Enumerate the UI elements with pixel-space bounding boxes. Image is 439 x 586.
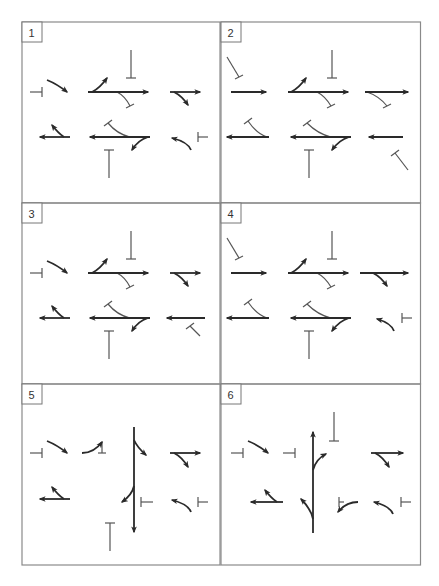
stop-cap: [244, 299, 252, 305]
movement-arrow-icon: [92, 78, 107, 92]
movement-arrow-icon: [132, 318, 148, 331]
stop-cap: [104, 120, 112, 126]
movement-arrow-icon: [47, 261, 67, 273]
movement-arrow-icon: [82, 442, 102, 453]
movement-arrow-icon: [332, 318, 349, 331]
stop-bar-icon: [117, 273, 130, 287]
movement-arrow-icon: [122, 486, 134, 502]
movement-arrow-icon: [174, 273, 188, 286]
panel-border: [221, 22, 421, 203]
movement-arrow-icon: [92, 259, 107, 273]
stop-cap: [126, 104, 134, 108]
stop-bar-icon: [367, 92, 387, 106]
stop-bar-icon: [248, 121, 267, 137]
stop-bar-icon: [227, 57, 239, 77]
stop-bar-icon: [395, 153, 408, 170]
stop-cap: [235, 256, 243, 260]
stop-cap: [383, 104, 391, 108]
panel-number: 2: [228, 27, 234, 39]
panel-2: 2: [221, 22, 421, 203]
stop-cap: [126, 285, 134, 289]
panel-4: 4: [221, 203, 421, 384]
movement-arrow-icon: [52, 125, 64, 137]
panel-number: 6: [228, 389, 234, 401]
movement-arrow-icon: [373, 273, 387, 286]
stop-bar-icon: [190, 326, 200, 336]
panel-5: 5: [22, 384, 220, 565]
panel-6: 6: [221, 384, 421, 565]
movement-arrow-icon: [172, 138, 191, 150]
movement-arrow-icon: [338, 502, 358, 512]
stop-cap: [244, 118, 252, 124]
movement-arrow-icon: [132, 137, 148, 150]
movement-arrow-icon: [375, 453, 389, 467]
stop-cap: [235, 75, 243, 79]
movement-arrow-icon: [174, 453, 188, 467]
panel-1: 1: [22, 22, 220, 203]
stop-cap: [327, 104, 335, 108]
stop-bar-icon: [227, 238, 239, 258]
movement-arrow-icon: [248, 441, 268, 453]
movement-arrow-icon: [172, 500, 191, 512]
panel-number: 4: [228, 208, 234, 220]
movement-arrow-icon: [174, 92, 188, 105]
stop-bar-icon: [317, 273, 331, 287]
phase-diagram-canvas: 123456: [0, 0, 439, 586]
movement-arrow-icon: [52, 306, 64, 318]
movement-arrow-icon: [291, 78, 306, 92]
phase-diagram-figure: 123456: [0, 0, 439, 586]
panel-3: 3: [22, 203, 220, 384]
stop-bar-icon: [108, 304, 130, 318]
movement-arrow-icon: [47, 80, 67, 92]
movement-arrow-icon: [374, 502, 393, 514]
stop-cap: [104, 301, 112, 307]
movement-arrow-icon: [265, 490, 277, 502]
stop-cap: [391, 150, 399, 156]
panel-border: [22, 384, 220, 565]
movement-arrow-icon: [291, 259, 306, 273]
stop-bar-icon: [248, 302, 267, 318]
movement-arrow-icon: [47, 441, 67, 453]
movement-arrow-icon: [52, 487, 64, 499]
stop-bar-icon: [117, 92, 130, 106]
movement-arrow-icon: [313, 454, 326, 470]
panel-number: 1: [29, 27, 35, 39]
panel-number: 5: [29, 389, 35, 401]
panel-border: [22, 203, 220, 384]
stop-cap: [327, 285, 335, 289]
panel-border: [22, 22, 220, 203]
movement-arrow-icon: [134, 440, 146, 455]
stop-bar-icon: [307, 304, 331, 318]
panels-grid: 123456: [22, 22, 421, 565]
movement-arrow-icon: [332, 137, 349, 150]
movement-arrow-icon: [301, 499, 313, 519]
panel-number: 3: [29, 208, 35, 220]
stop-bar-icon: [317, 92, 331, 106]
panel-border: [221, 384, 421, 565]
movement-arrow-icon: [377, 319, 394, 331]
stop-bar-icon: [307, 123, 331, 137]
stop-bar-icon: [108, 123, 130, 137]
panel-border: [221, 203, 421, 384]
